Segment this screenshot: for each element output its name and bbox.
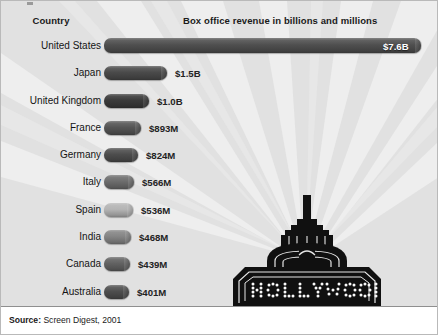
value-label: $468M xyxy=(139,232,168,243)
bar-row: United Kingdom$1.0B xyxy=(1,89,438,116)
value-label: $824M xyxy=(146,150,175,161)
bar-row: Spain$536M xyxy=(1,198,438,225)
value-label: $536M xyxy=(141,205,170,216)
revenue-bar xyxy=(104,66,167,80)
revenue-bar xyxy=(104,257,130,271)
source-note: Source: Screen Digest, 2001 xyxy=(9,315,121,325)
source-text: Screen Digest, 2001 xyxy=(43,315,121,325)
country-label: Japan xyxy=(1,67,101,78)
revenue-bar xyxy=(104,148,138,162)
bar-end-cap xyxy=(161,66,168,80)
value-label: $401M xyxy=(137,287,166,298)
bar-end-cap xyxy=(123,285,130,299)
bar-row: Italy$566M xyxy=(1,170,438,197)
country-label: Italy xyxy=(1,176,101,187)
bar-end-cap xyxy=(127,203,134,217)
bar-rows: United States$7.6BJapan$1.5BUnited Kingd… xyxy=(1,34,438,307)
country-label: Australia xyxy=(1,286,101,297)
scan-artifact-mark xyxy=(27,2,33,5)
revenue-bar xyxy=(104,121,141,135)
bar-end-cap xyxy=(125,230,132,244)
revenue-bar xyxy=(104,230,131,244)
bar-end-cap xyxy=(124,257,131,271)
header-country: Country xyxy=(1,15,101,26)
country-label: Spain xyxy=(1,204,101,215)
value-label: $1.5B xyxy=(175,68,201,79)
country-label: United States xyxy=(1,40,101,51)
bar-end-cap xyxy=(143,94,150,108)
source-label: Source: xyxy=(9,315,41,325)
bar-end-cap xyxy=(128,175,135,189)
value-label: $439M xyxy=(138,259,167,270)
bar-row: Canada$439M xyxy=(1,252,438,279)
value-label: $7.6B xyxy=(383,41,409,52)
country-label: Canada xyxy=(1,258,101,269)
revenue-bar xyxy=(104,38,421,53)
revenue-bar xyxy=(104,175,134,189)
country-label: Germany xyxy=(1,149,101,160)
country-label: United Kingdom xyxy=(1,95,101,106)
bar-end-cap xyxy=(132,148,139,162)
bar-row: Germany$824M xyxy=(1,143,438,170)
revenue-bar xyxy=(104,203,133,217)
country-label: India xyxy=(1,231,101,242)
box-office-revenue-chart: Country Box office revenue in billions a… xyxy=(0,0,438,335)
bar-row: India$468M xyxy=(1,225,438,252)
bar-end-cap xyxy=(135,121,142,135)
bar-row: France$893M xyxy=(1,116,438,143)
bar-row: United States$7.6B xyxy=(1,34,438,61)
header-revenue: Box office revenue in billions and milli… xyxy=(183,15,377,26)
value-label: $566M xyxy=(142,177,171,188)
revenue-bar xyxy=(104,285,129,299)
bar-row: Australia$401M xyxy=(1,280,438,307)
bar-end-cap xyxy=(415,38,422,53)
footer-band: Source: Screen Digest, 2001 xyxy=(1,306,438,334)
value-label: $893M xyxy=(149,123,178,134)
bar-row: Japan$1.5B xyxy=(1,61,438,88)
revenue-bar xyxy=(104,94,149,108)
country-label: France xyxy=(1,122,101,133)
column-headers: Country Box office revenue in billions a… xyxy=(1,15,438,31)
value-label: $1.0B xyxy=(157,96,183,107)
